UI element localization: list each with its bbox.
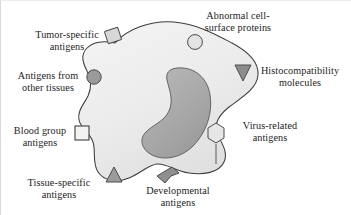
marker-antigens-from-other-tissues	[87, 70, 101, 84]
label-tissue-specific-antigens: Tissue-specific antigens	[17, 177, 101, 200]
label-line: antigens	[229, 132, 311, 144]
label-line: Histocompatibility	[253, 65, 347, 77]
label-antigens-from-other-tissues: Antigens from other tissues	[11, 70, 85, 93]
label-line: Tumor-specific	[25, 29, 109, 41]
label-histocompatibility-molecules: Histocompatibility molecules	[253, 65, 347, 88]
label-abnormal-cell-surface-proteins: Abnormal cell- surface proteins	[186, 10, 290, 33]
label-line: Developmental	[133, 185, 223, 197]
antigen-cell-diagram: Tumor-specific antigens Abnormal cell- s…	[0, 0, 351, 215]
label-line: antigens	[7, 137, 73, 149]
label-virus-related-antigens: Virus-related antigens	[229, 120, 311, 143]
marker-blood-group-antigens	[75, 126, 89, 140]
label-tumor-specific-antigens: Tumor-specific antigens	[25, 29, 109, 52]
label-line: Tissue-specific	[17, 177, 101, 189]
label-line: Blood group	[7, 125, 73, 137]
label-line: other tissues	[11, 82, 85, 94]
label-line: Abnormal cell-	[186, 10, 290, 22]
label-line: Antigens from	[11, 70, 85, 82]
label-blood-group-antigens: Blood group antigens	[7, 125, 73, 148]
label-line: antigens	[133, 197, 223, 209]
label-line: Virus-related	[229, 120, 311, 132]
label-line: antigens	[17, 189, 101, 201]
label-line: molecules	[253, 77, 347, 89]
marker-virus-related-antigens	[208, 123, 224, 143]
marker-abnormal-cell-surface-proteins	[188, 35, 203, 50]
label-developmental-antigens: Developmental antigens	[133, 185, 223, 208]
label-line: surface proteins	[186, 22, 290, 34]
label-line: antigens	[25, 41, 109, 53]
